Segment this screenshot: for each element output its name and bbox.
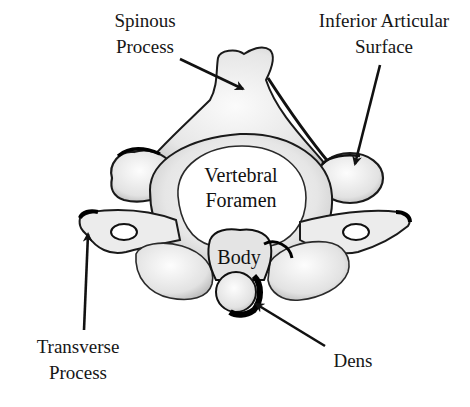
label-transverse-process-line1: Transverse bbox=[37, 334, 120, 360]
label-spinous-process-line2: Process bbox=[114, 34, 175, 60]
label-body: Body bbox=[217, 245, 260, 270]
label-vertebral-foramen-line2: Foramen bbox=[204, 188, 277, 213]
label-inferior-articular-surface: Inferior Articular Surface bbox=[319, 8, 449, 60]
label-body-line1: Body bbox=[217, 245, 260, 270]
label-inferior-articular-surface-line2: Surface bbox=[319, 34, 449, 60]
label-inferior-articular-surface-line1: Inferior Articular bbox=[319, 8, 449, 34]
transverse-process-arrow bbox=[84, 234, 88, 330]
inferior-articular-surface-arrow bbox=[355, 65, 380, 164]
label-transverse-process: Transverse Process bbox=[37, 334, 120, 386]
label-dens-line1: Dens bbox=[333, 348, 372, 374]
label-transverse-process-line2: Process bbox=[37, 360, 120, 386]
label-spinous-process-line1: Spinous bbox=[114, 8, 175, 34]
dens-arrow bbox=[256, 304, 325, 346]
label-spinous-process: Spinous Process bbox=[114, 8, 175, 60]
dens-shape bbox=[216, 272, 260, 315]
label-dens: Dens bbox=[333, 348, 372, 374]
label-vertebral-foramen-line1: Vertebral bbox=[204, 163, 277, 188]
label-vertebral-foramen: Vertebral Foramen bbox=[204, 163, 277, 213]
